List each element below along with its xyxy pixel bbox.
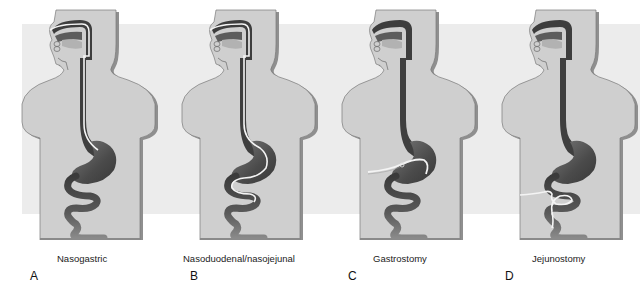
panel-nasoduodenal: Nasoduodenal/nasojejunal B xyxy=(160,0,320,287)
caption-gastrostomy: Gastrostomy xyxy=(373,253,427,264)
panel-nasogastric: Nasogastric A xyxy=(0,0,160,287)
panel-letter-a: A xyxy=(30,269,38,283)
panel-letter-c: C xyxy=(348,269,357,283)
torso-illustration xyxy=(320,0,480,240)
panel-gastrostomy: Gastrostomy C xyxy=(320,0,480,287)
torso-illustration xyxy=(0,0,160,240)
caption-nasogastric: Nasogastric xyxy=(57,253,107,264)
torso-illustration xyxy=(480,0,640,240)
panel-jejunostomy: Jejunostomy D xyxy=(480,0,640,287)
caption-jejunostomy: Jejunostomy xyxy=(532,253,585,264)
caption-nasoduodenal: Nasoduodenal/nasojejunal xyxy=(183,253,295,264)
panel-letter-b: B xyxy=(190,269,198,283)
panel-letter-d: D xyxy=(505,269,514,283)
torso-illustration xyxy=(160,0,320,240)
